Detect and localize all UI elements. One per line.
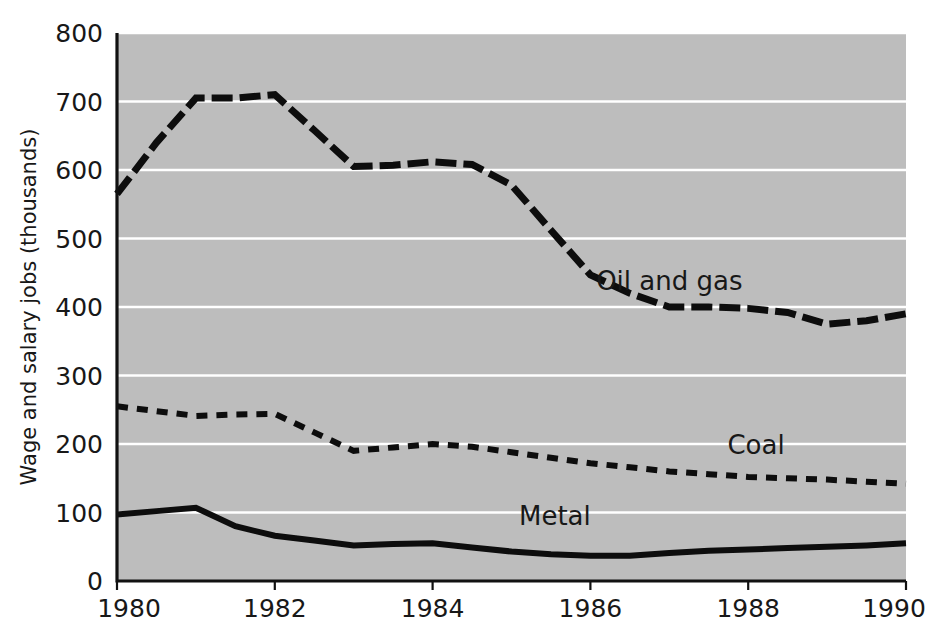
y-tick-label: 100 — [55, 499, 103, 528]
y-tick-label: 200 — [55, 430, 103, 459]
series-label-metal: Metal — [519, 501, 591, 531]
y-tick-label: 600 — [55, 156, 103, 185]
y-axis-tick-labels: 0100200300400500600700800 — [55, 19, 103, 596]
line-chart: 0100200300400500600700800 19801982198419… — [0, 0, 950, 641]
series-label-coal: Coal — [727, 430, 784, 460]
y-tick-label: 400 — [55, 293, 103, 322]
y-tick-label: 800 — [55, 19, 103, 48]
x-tick-label: 1982 — [243, 594, 307, 623]
x-tick-label: 1988 — [716, 594, 780, 623]
x-tick-label: 1986 — [559, 594, 623, 623]
y-tick-label: 300 — [55, 362, 103, 391]
x-tick-label: 1984 — [401, 594, 465, 623]
y-axis-title: Wage and salary jobs (thousands) — [17, 129, 41, 486]
y-tick-label: 700 — [55, 88, 103, 117]
y-tick-label: 500 — [55, 225, 103, 254]
x-tick-label: 1990 — [862, 594, 926, 623]
series-label-oil-and-gas: Oil and gas — [596, 266, 742, 296]
x-tick-label: 1980 — [97, 594, 161, 623]
chart-figure: 0100200300400500600700800 19801982198419… — [0, 0, 950, 641]
y-tick-label: 0 — [87, 567, 103, 596]
